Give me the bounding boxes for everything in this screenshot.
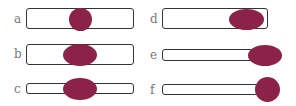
panel-e-substrate-bar <box>162 49 254 61</box>
panel-label-e: e <box>150 49 157 61</box>
panel-label-c: c <box>14 83 21 95</box>
panel-label-b: b <box>14 48 22 60</box>
panel-label-a: a <box>14 13 21 25</box>
panel-b-cell-blob <box>63 44 97 66</box>
panel-f-cell-blob <box>255 77 280 102</box>
panel-a-cell-blob <box>69 8 92 31</box>
panel-label-d: d <box>150 13 158 25</box>
panel-c-cell-blob <box>63 78 97 100</box>
panel-f-substrate-bar <box>162 84 258 95</box>
panel-d-cell-blob <box>229 9 264 30</box>
panel-label-f: f <box>150 84 154 96</box>
panel-e-cell-blob <box>248 45 282 66</box>
